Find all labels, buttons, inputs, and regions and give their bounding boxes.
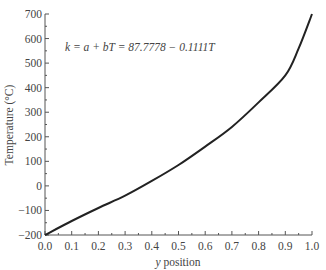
y-tick-label: 100 [25,155,43,167]
x-tick-label: 0.0 [38,240,53,252]
equation-annotation: k = a + bT = 87.7778 − 0.1111T [65,41,216,53]
x-tick-label: 0.7 [225,240,240,252]
x-tick-label: 0.8 [251,240,266,252]
x-tick-label: 0.5 [171,240,186,252]
y-tick-label: 0 [36,180,42,192]
chart: 0.00.10.20.30.40.50.60.70.80.91.0−200−10… [0,0,326,270]
y-tick-label: 700 [25,8,43,20]
x-tick-label: 0.6 [198,240,213,252]
y-tick-label: −100 [18,204,42,216]
y-tick-label: −200 [18,229,42,241]
x-tick-label: 0.2 [91,240,106,252]
y-tick-label: 600 [25,33,43,45]
x-tick-label: 0.1 [65,240,80,252]
y-tick-label: 300 [25,106,43,118]
y-tick-label: 200 [25,131,43,143]
y-tick-label: 500 [25,57,43,69]
x-tick-label: 1.0 [305,240,320,252]
y-tick-label: 400 [25,82,43,94]
x-tick-label: 0.9 [278,240,293,252]
y-axis-label: Temperature (°C) [3,84,16,165]
x-tick-label: 0.3 [118,240,133,252]
x-axis-label: y position [154,256,200,269]
x-tick-label: 0.4 [145,240,160,252]
